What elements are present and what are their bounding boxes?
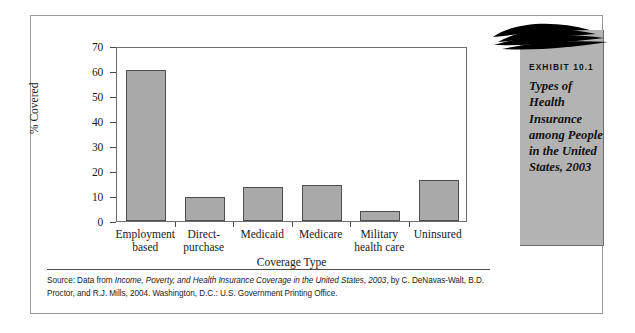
y-tick-label: 70 [92,41,103,53]
y-tick-label: 0 [97,216,103,228]
x-axis-category-label: Militaryhealth care [346,228,413,253]
exhibit-title: Types ofHealthInsuranceamong Peoplein th… [529,78,605,176]
x-tick-mark [409,222,410,227]
x-tick-mark [175,222,176,227]
source-line1-suffix: , by [386,276,399,285]
y-tick-label: 40 [92,116,103,128]
source-divider [47,269,490,270]
x-tick-mark [350,222,351,227]
bar [302,185,342,221]
x-axis-category-label-line: Medicare [288,228,355,241]
x-axis-category-label-line: purchase [171,241,238,254]
exhibit-title-line: Health [529,94,605,110]
y-tick-label: 10 [92,191,103,203]
x-axis-category-label-line: Direct- [171,228,238,241]
bar [243,187,283,221]
x-axis-category-label: Uninsured [405,228,472,241]
exhibit-side-panel: EXHIBIT 10.1 Types ofHealthInsuranceamon… [520,30,604,246]
plot-area [116,47,467,222]
y-tick-label: 50 [92,91,103,103]
exhibit-title-line: Insurance [529,111,605,127]
x-axis-category-label-line: Medicaid [229,228,296,241]
exhibit-title-line: in the United [529,143,605,159]
bar [360,211,400,221]
y-axis-title: % Covered [28,83,40,134]
y-tick-label: 30 [92,141,103,153]
x-axis-category-label: Direct-purchase [171,228,238,253]
y-tick-label: 60 [92,66,103,78]
x-axis-category-label-line: Military [346,228,413,241]
source-line1-prefix: Source: Data from [47,276,115,285]
bar-chart: % Covered 010203040506070 Employmentbase… [31,16,501,266]
exhibit-title-line: Types of [529,78,605,94]
x-axis-category-label-line: Employment [112,228,179,241]
bar [126,70,166,221]
x-axis-category-label-line: based [112,241,179,254]
exhibit-figure-frame: % Covered 010203040506070 Employmentbase… [30,15,603,314]
x-axis-category-label: Employmentbased [112,228,179,253]
exhibit-number: EXHIBIT 10.1 [529,62,594,72]
x-tick-mark [292,222,293,227]
x-axis-category-label: Medicare [288,228,355,241]
source-note: Source: Data from Income, Poverty, and H… [47,275,499,300]
swoosh-decoration-icon [492,18,610,52]
x-axis-category-label: Medicaid [229,228,296,241]
x-axis-category-label-line: Uninsured [405,228,472,241]
x-axis-category-label-line: health care [346,241,413,254]
bar [419,180,459,221]
source-line1-italic-title: Income, Poverty, and Health Insurance Co… [115,276,387,285]
x-tick-mark [233,222,234,227]
x-axis-title: Coverage Type [116,256,467,268]
exhibit-title-line: among People [529,127,605,143]
exhibit-title-line: States, 2003 [529,159,605,175]
y-tick-label: 20 [92,166,103,178]
bar [185,197,225,221]
